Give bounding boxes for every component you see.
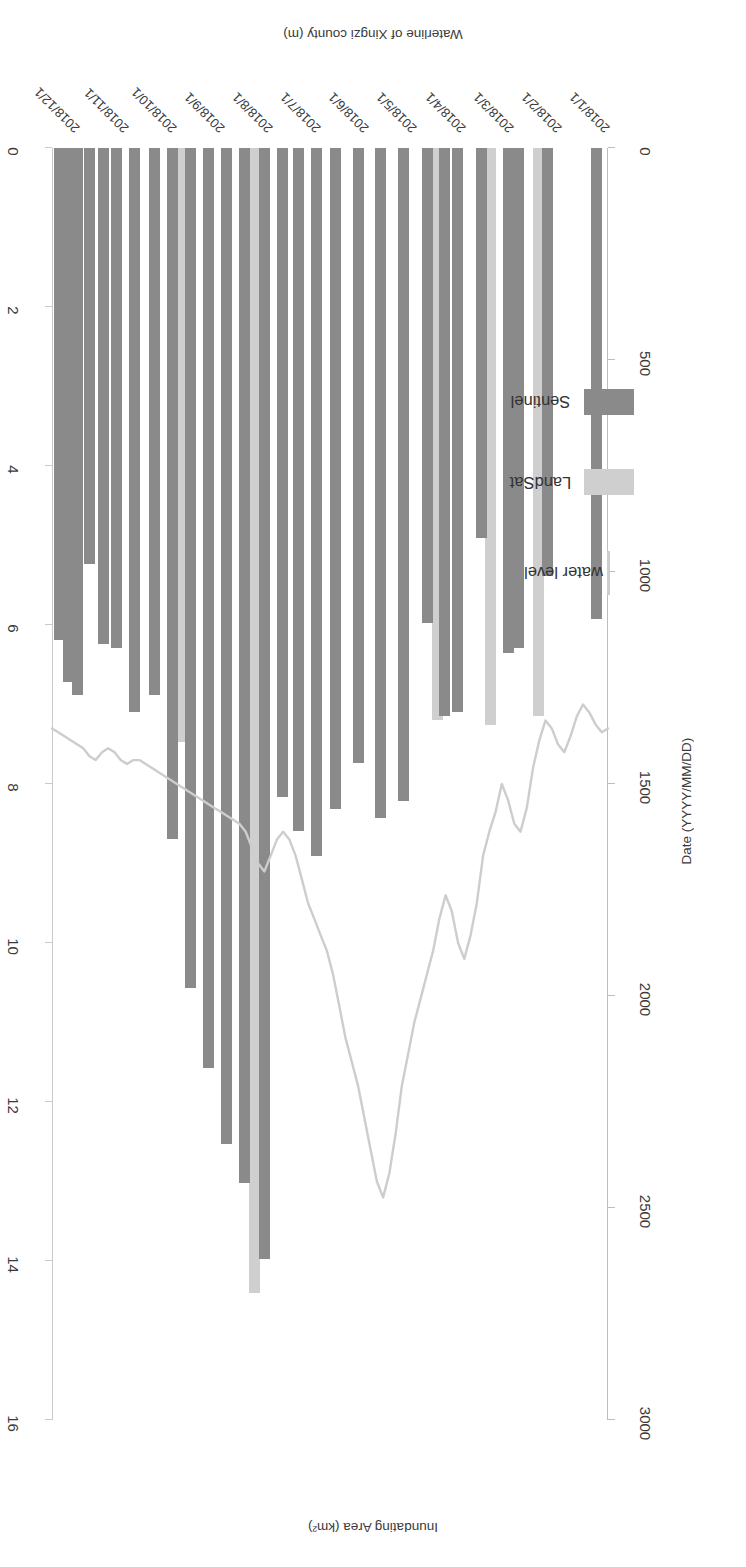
x-axis-tick-label: 2018/8/1 [229,90,275,136]
legend-item: Sentinel [531,372,634,432]
legend-item: water level [554,533,634,612]
x-axis-tick-label: 2018/5/1 [374,90,420,136]
legend-item: LandSat [531,452,634,513]
legend-label: LandSat [510,473,571,492]
primary-axis-tick [608,995,615,996]
primary-axis-tick-label: 500 [637,341,654,387]
legend-bar-swatch [584,469,634,495]
secondary-axis-tick-label: 2 [5,288,22,334]
primary-axis-tick [608,1207,615,1208]
x-axis-tick-label: 2018/6/1 [326,90,372,136]
primary-axis-tick-label: 3000 [637,1401,654,1447]
primary-axis-tick-label: 1500 [637,765,654,811]
primary-axis-tick [608,147,615,148]
x-axis-tick-label: 2018/9/1 [181,90,227,136]
secondary-axis-tick-label: 10 [5,924,22,970]
primary-axis-tick-label: 2500 [637,1189,654,1235]
x-axis-title: Date (YYYY/MM/DD) [679,745,694,865]
secondary-axis-title: Waterline of Xingzi county (m) [0,27,746,42]
chart-legend: SentinelLandSatwater level [531,372,634,612]
x-axis-tick-label: 2018/1/1 [566,90,612,136]
legend-line-swatch [607,551,610,595]
legend-label: water level [524,563,603,582]
figure-page: Waterline of Xingzi county (m) Inundatin… [0,0,746,1567]
secondary-axis-tick-label: 4 [5,447,22,493]
x-axis-tick-label: 2018/11/1 [80,85,131,136]
secondary-axis-tick-label: 16 [5,1401,22,1447]
x-axis-tick-label: 2018/4/1 [422,90,468,136]
x-axis-tick-label: 2018/7/1 [277,90,323,136]
secondary-axis-tick-label: 0 [5,129,22,175]
legend-bar-swatch [584,389,634,415]
legend-label: Sentinel [511,392,571,411]
x-axis-tick-label: 2018/2/1 [518,90,564,136]
secondary-axis-tick [45,624,52,625]
secondary-axis-tick [45,465,52,466]
secondary-axis-tick [45,306,52,307]
primary-axis-tick-label: 0 [637,129,654,175]
x-axis-tick-label: 2018/12/1 [32,84,84,136]
secondary-axis-tick [45,1419,52,1420]
secondary-axis-tick-label: 12 [5,1083,22,1129]
primary-axis-tick [608,359,615,360]
plot-area [52,148,608,1420]
secondary-axis-tick [45,1260,52,1261]
secondary-axis-tick-label: 8 [5,765,22,811]
secondary-axis-tick [45,783,52,784]
x-axis-tick-label: 2018/3/1 [470,90,516,136]
x-axis-tick-label: 2018/10/1 [128,84,180,136]
secondary-axis-tick [45,1101,52,1102]
primary-axis-tick [608,783,615,784]
secondary-axis-tick-label: 14 [5,1242,22,1288]
chart-figure: Waterline of Xingzi county (m) Inundatin… [0,0,746,1567]
primary-axis-title: Inundating Area (km²) [0,1520,746,1535]
water-level-line [52,148,608,1420]
secondary-axis-tick-label: 6 [5,606,22,652]
primary-axis-tick [608,1419,615,1420]
primary-axis-tick-label: 2000 [637,977,654,1023]
primary-axis-tick-label: 1000 [637,553,654,599]
secondary-axis-tick [45,942,52,943]
secondary-axis-tick [45,147,52,148]
